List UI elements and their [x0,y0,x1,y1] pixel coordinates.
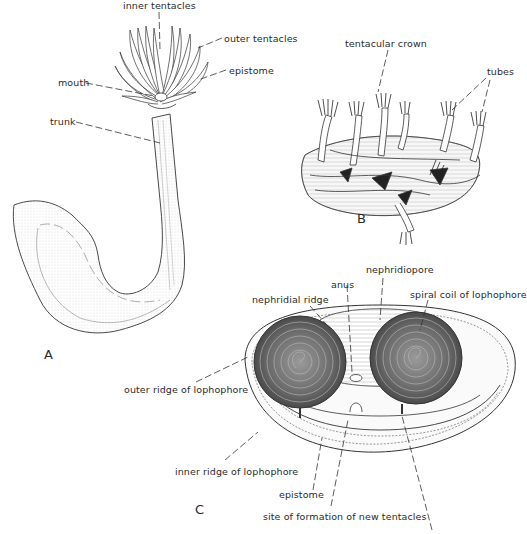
label-outer-tentacles: outer tentacles [224,34,298,44]
label-tentacular-crown: tentacular crown [345,39,427,49]
panel-b-drawing [302,93,486,245]
label-inner-ridge: inner ridge of lophophore [175,467,298,477]
label-new-tentacles: site of formation of new tentacles [263,512,427,522]
panel-letter-a: A [44,348,53,361]
label-epistome-a: epistome [229,66,274,76]
label-anus: anus [331,280,354,290]
label-epistome-c: epistome [279,490,324,500]
label-nephridiopore: nephridiopore [366,265,434,275]
panel-c-drawing [245,305,515,452]
label-outer-ridge: outer ridge of lophophore [124,385,248,395]
panel-letter-c: C [195,503,204,516]
label-inner-tentacles: inner tentacles [123,1,196,11]
panel-b-leaders [378,50,490,112]
label-spiral-coil: spiral coil of lophophore [410,290,527,300]
panel-letter-b: B [357,212,366,225]
label-mouth: mouth [58,78,89,88]
label-tubes: tubes [487,67,514,77]
panel-a-drawing [13,26,208,333]
label-nephridial-ridge: nephridial ridge [252,295,329,305]
label-trunk: trunk [50,117,76,127]
